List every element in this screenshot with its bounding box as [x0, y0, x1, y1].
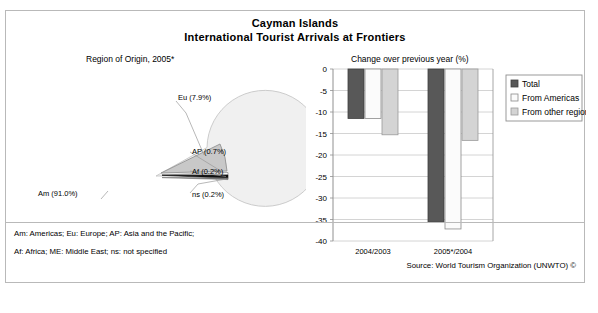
bar [428, 69, 444, 222]
pie-slice-am [156, 90, 306, 206]
y-tick-label: -35 [315, 216, 327, 225]
footer-divider [6, 222, 584, 223]
bar-chart-y-axis-labels: 0-5-10-15-20-25-30-35-40 [315, 65, 327, 246]
bar [445, 69, 461, 229]
legend-label: Total [522, 79, 540, 89]
bar-chart-bars [348, 69, 478, 229]
pie-label-am: Am (91.0%) [38, 189, 78, 198]
y-tick-label: 0 [323, 65, 328, 74]
pie-label-eu: Eu (7.9%) [178, 93, 211, 102]
pie-chart-panel: Region of Origin, 2005* Am (91.0%) Eu (7… [6, 51, 306, 246]
y-tick-label: -25 [315, 173, 327, 182]
chart-title-block: Cayman Islands International Tourist Arr… [6, 16, 584, 45]
bar-chart-x-axis-labels: 2004/20032005*/2004 [355, 247, 472, 256]
bar [462, 69, 478, 140]
legend-swatch [511, 94, 518, 101]
source-note: Source: World Tourism Organization (UNWT… [406, 261, 576, 270]
legend-label: From other regions [522, 107, 586, 117]
y-tick-label: -20 [315, 151, 327, 160]
pie-label-af: Af (0.2%) [192, 167, 223, 176]
x-category-label: 2005*/2004 [434, 247, 472, 256]
legend-swatch [511, 80, 518, 87]
y-tick-label: -30 [315, 194, 327, 203]
pie-slice-ns [162, 178, 228, 180]
pie-leader-line-am [101, 191, 108, 199]
bar [382, 69, 398, 135]
legend-label: From Americas [522, 93, 579, 103]
footnote-abbreviations-line-1: Am: Americas; Eu: Europe; AP: Asia and t… [14, 229, 194, 238]
chart-title-line-1: Cayman Islands [6, 16, 584, 30]
pie-chart-graphic [6, 51, 306, 246]
legend-swatch [511, 108, 518, 115]
chart-title-line-2: International Tourist Arrivals at Fronti… [6, 30, 584, 45]
y-tick-label: -15 [315, 130, 327, 139]
pie-label-ns: ns (0.2%) [192, 190, 224, 199]
bar [348, 69, 364, 118]
figure-frame: Cayman Islands International Tourist Arr… [5, 10, 585, 283]
y-tick-label: -5 [320, 87, 328, 96]
bar-chart-graphic: 0-5-10-15-20-25-30-35-40 2004/20032005*/… [301, 51, 586, 266]
y-tick-label: -40 [315, 237, 327, 246]
pie-label-ap: AP (0.7%) [192, 147, 226, 156]
x-category-label: 2004/2003 [355, 247, 390, 256]
bar-chart-panel: Change over previous year (%) 0-5-10-15-… [301, 51, 586, 266]
bar [365, 69, 381, 118]
footnote-abbreviations-line-2: Af: Africa; ME: Middle East; ns: not spe… [14, 247, 167, 256]
bar-chart-legend: TotalFrom AmericasFrom other regions [506, 75, 586, 121]
y-tick-label: -10 [315, 108, 327, 117]
